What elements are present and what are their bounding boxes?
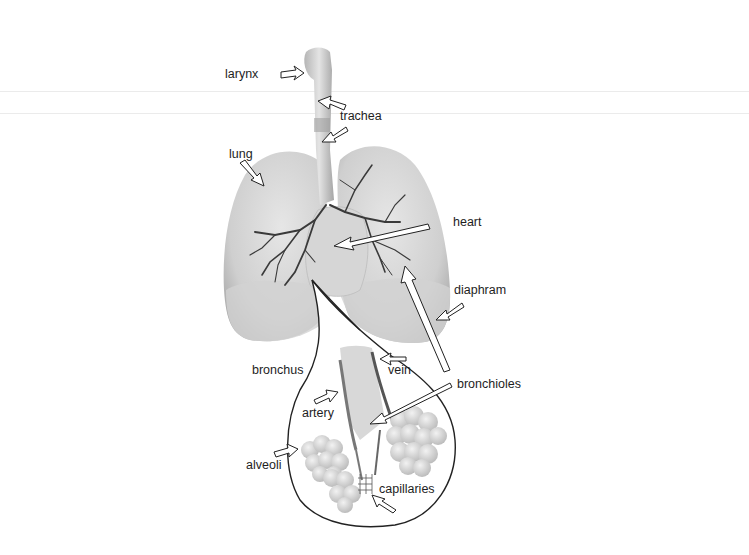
label-larynx: larynx — [225, 68, 258, 81]
label-trachea: trachea — [340, 110, 382, 123]
label-capillaries: capillaries — [379, 483, 435, 496]
label-alveoli: alveoli — [246, 459, 281, 472]
respiratory-diagram — [0, 0, 749, 555]
label-diaphram: diaphram — [454, 284, 506, 297]
label-artery: artery — [302, 407, 334, 420]
label-vein: vein — [388, 364, 411, 377]
label-bronchioles: bronchioles — [457, 378, 521, 391]
label-heart: heart — [453, 216, 482, 229]
label-bronchus: bronchus — [252, 364, 303, 377]
label-lung: lung — [229, 148, 253, 161]
arrow-larynx — [281, 66, 304, 80]
